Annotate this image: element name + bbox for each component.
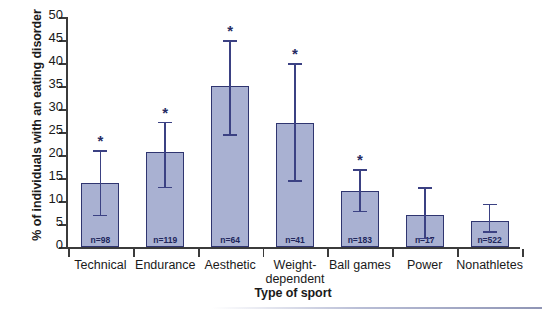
error-bar-cap-upper — [223, 40, 237, 42]
x-axis-tick-label-line: Nonathletes — [456, 259, 523, 273]
y-axis-tick-label: 25 — [49, 123, 63, 136]
x-axis-tick — [522, 249, 524, 257]
error-bar-line — [489, 204, 491, 232]
error-bar-line — [424, 187, 426, 238]
x-axis-title: Type of sport — [66, 286, 520, 300]
y-axis-tick-label: 20 — [49, 146, 63, 159]
x-axis-tick — [457, 249, 459, 257]
significance-asterisk: * — [98, 133, 104, 148]
error-bar-cap-upper — [353, 169, 367, 171]
x-axis-tick-label-line: Aesthetic — [204, 259, 255, 273]
y-axis-tick-label: 40 — [49, 54, 63, 67]
sample-size-label: n=522 — [472, 236, 508, 245]
y-axis-tick-label: 15 — [49, 169, 63, 182]
eating-disorder-bar-chart: % of individuals with an eating disorder… — [0, 0, 542, 313]
error-bar-cap-lower — [223, 134, 237, 136]
x-axis-tick-label-line: Technical — [74, 259, 126, 273]
error-bar-cap-lower — [93, 215, 107, 217]
sample-size-label: n=183 — [342, 236, 378, 245]
x-axis-tick-label: Power — [407, 259, 442, 273]
page-edge-artifact — [212, 307, 542, 309]
significance-asterisk: * — [162, 105, 168, 120]
x-axis-tick-label: Nonathletes — [456, 259, 523, 273]
x-axis-tick-label: Aesthetic — [204, 259, 255, 273]
error-bar-cap-lower — [288, 180, 302, 182]
sample-size-label: n=119 — [147, 236, 183, 245]
y-axis-tick-label: 30 — [49, 100, 63, 113]
significance-asterisk: * — [357, 152, 363, 167]
x-axis-tick-label-line: Weight- — [265, 259, 324, 273]
x-axis-tick-label-line: dependent — [265, 273, 324, 287]
x-axis-tick — [263, 249, 265, 257]
y-axis-tick-label: 10 — [49, 192, 63, 205]
significance-asterisk: * — [227, 23, 233, 38]
y-axis-tick-label: 5 — [56, 215, 63, 228]
x-axis-tick — [327, 249, 329, 257]
error-bar-cap-lower — [418, 238, 432, 240]
y-axis-tick-label: 50 — [49, 8, 63, 21]
sample-size-label: n=98 — [82, 236, 118, 245]
error-bar-cap-lower — [158, 187, 172, 189]
y-axis-tick-label: 35 — [49, 77, 63, 90]
error-bar-cap-lower — [483, 231, 497, 233]
error-bar-cap-upper — [418, 187, 432, 189]
sample-size-label: n=64 — [212, 236, 248, 245]
sample-size-label: n=41 — [277, 236, 313, 245]
y-axis-line — [66, 17, 68, 249]
error-bar-line — [294, 63, 296, 180]
significance-asterisk: * — [292, 46, 298, 61]
error-bar-cap-upper — [93, 150, 107, 152]
error-bar-line — [229, 40, 231, 134]
y-axis-tick-label: 45 — [49, 31, 63, 44]
y-axis-tick-label: 0 — [56, 238, 63, 251]
error-bar-cap-upper — [158, 122, 172, 124]
x-axis-tick-label-line: Endurance — [135, 259, 195, 273]
x-axis-tick — [68, 249, 70, 257]
x-axis-tick — [198, 249, 200, 257]
x-axis-tick — [392, 249, 394, 257]
plot-area: 05101520253035404550 n=98n=119n=64n=41n=… — [66, 17, 520, 248]
error-bar-cap-upper — [483, 204, 497, 206]
x-axis-tick-label: Ball games — [329, 259, 391, 273]
error-bar-cap-upper — [288, 63, 302, 65]
x-axis-tick — [133, 249, 135, 257]
error-bar-cap-lower — [353, 211, 367, 213]
error-bar-line — [100, 150, 102, 214]
y-axis-title: % of individuals with an eating disorder — [30, 0, 44, 250]
error-bar-line — [359, 169, 361, 210]
x-axis-tick-label: Weight-dependent — [265, 259, 324, 286]
x-axis-tick-label-line: Ball games — [329, 259, 391, 273]
x-axis-tick-label-line: Power — [407, 259, 442, 273]
error-bar-line — [164, 122, 166, 187]
x-axis-tick-label: Technical — [74, 259, 126, 273]
x-axis-tick-label: Endurance — [135, 259, 195, 273]
